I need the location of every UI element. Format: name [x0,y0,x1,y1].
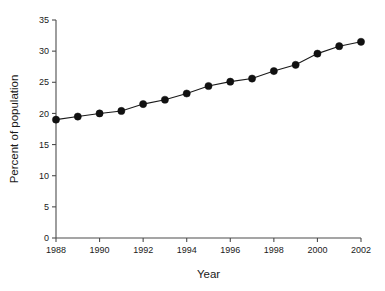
data-point [270,67,277,74]
y-tick-label: 0 [44,233,49,243]
y-axis-title: Percent of population [8,75,20,184]
y-axis-tick-labels: 05101520253035 [39,15,49,243]
data-point [248,75,255,82]
y-axis-tick-marks [52,20,56,238]
line-chart: 05101520253035 1988199019921994199619982… [0,0,385,291]
data-point [140,100,147,107]
data-point [292,61,299,68]
y-tick-label: 35 [39,15,49,25]
data-point [118,107,125,114]
x-tick-label: 1990 [90,245,110,255]
data-point [183,90,190,97]
x-tick-label: 2002 [351,245,371,255]
data-point [205,82,212,89]
data-point [52,116,59,123]
y-tick-label: 30 [39,46,49,56]
data-point [74,113,81,120]
x-tick-label: 1998 [264,245,284,255]
y-tick-label: 20 [39,109,49,119]
chart-figure: 05101520253035 1988199019921994199619982… [0,0,385,291]
y-tick-label: 15 [39,140,49,150]
x-tick-label: 1992 [133,245,153,255]
x-tick-label: 1994 [177,245,197,255]
x-axis-tick-marks [56,238,361,242]
data-point [161,96,168,103]
x-tick-label: 1996 [220,245,240,255]
y-tick-label: 5 [44,202,49,212]
data-point [96,110,103,117]
y-tick-label: 10 [39,171,49,181]
x-axis-tick-labels: 19881990199219941996199820002002 [46,245,371,255]
data-point-markers [52,38,364,123]
x-tick-label: 2000 [307,245,327,255]
data-point [357,38,364,45]
data-point [336,43,343,50]
x-tick-label: 1988 [46,245,66,255]
y-tick-label: 25 [39,77,49,87]
data-point [227,78,234,85]
data-point [314,50,321,57]
x-axis-title: Year [197,268,220,280]
